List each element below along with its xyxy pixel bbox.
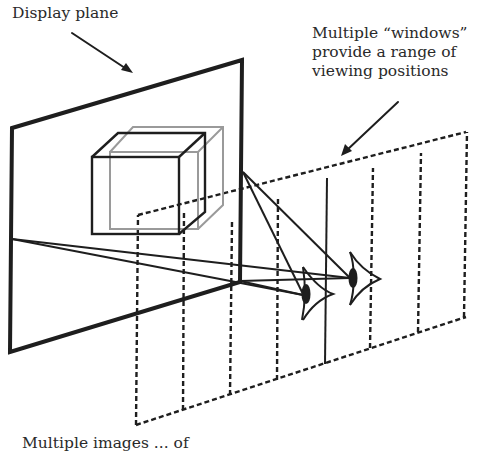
solid-window-divider — [325, 178, 327, 364]
right-eye-icon — [350, 252, 381, 305]
display-plane-arrow — [72, 33, 133, 73]
front-cube — [92, 133, 205, 234]
windows-arrow — [341, 102, 398, 156]
display-plane — [10, 60, 242, 352]
